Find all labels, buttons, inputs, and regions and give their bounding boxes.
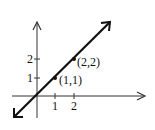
x-tick-label-2: 2 <box>71 99 77 113</box>
y-tick-label-2: 2 <box>27 52 33 66</box>
x-tick-label-1: 1 <box>52 99 58 113</box>
graph: 1 2 1 2 (1,1) (2,2) <box>0 0 155 130</box>
point-1-1 <box>53 76 57 80</box>
point-label-1-1: (1,1) <box>59 73 82 87</box>
point-label-2-2: (2,2) <box>77 55 100 69</box>
y-tick-label-1: 1 <box>27 71 33 85</box>
point-2-2 <box>72 57 76 61</box>
line-y-equals-x <box>15 23 109 116</box>
